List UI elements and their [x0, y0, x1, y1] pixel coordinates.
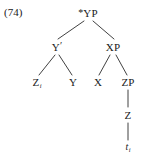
node-label-text: X — [94, 76, 102, 88]
branch-ybar-to-y — [59, 55, 72, 75]
node-label-text: Z — [33, 76, 40, 88]
z-subject-node: Zi — [33, 77, 42, 88]
index-subscript: i — [40, 82, 42, 89]
branch-xp-to-zp — [116, 55, 127, 75]
node-label-text: YP — [83, 7, 97, 19]
z-node: Z — [125, 110, 132, 121]
node-label-text: Z — [125, 109, 132, 121]
zp-node: ZP — [121, 77, 134, 88]
x-head-node: X — [94, 77, 102, 88]
node-label-text: Y — [52, 41, 60, 53]
trace-node: ti — [126, 142, 131, 152]
syntax-tree-figure: (74) *YPY′XPZiYXZPZti — [0, 0, 148, 158]
xp-node: XP — [106, 42, 120, 53]
node-label-text: XP — [106, 41, 120, 53]
ungrammatical-asterisk: * — [78, 7, 83, 18]
branch-root-to-xp — [93, 21, 114, 39]
node-label-text: Y — [69, 76, 77, 88]
branch-root-to-ybar — [58, 21, 84, 39]
bar-level-prime: ′ — [60, 40, 62, 51]
root-node: *YP — [78, 8, 98, 19]
y-bar-node: Y′ — [52, 42, 63, 53]
branch-xp-to-x — [99, 55, 110, 75]
y-head-node: Y — [69, 77, 77, 88]
node-label-text: ZP — [121, 76, 134, 88]
branch-ybar-to-z — [39, 55, 55, 75]
index-subscript: i — [129, 146, 131, 153]
